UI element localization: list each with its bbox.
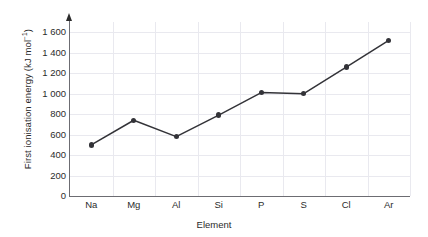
- x-axis-tick-label-si: Si: [199, 199, 239, 210]
- plot-area: [70, 22, 410, 196]
- x-axis-line: [69, 196, 410, 197]
- y-axis-line: [69, 20, 70, 197]
- y-axis-arrow-icon: [66, 13, 72, 21]
- ionisation-energy-chart: 02004006008001 0001 2001 4001 600 NaMgAl…: [0, 0, 428, 237]
- x-axis-tick-label-na: Na: [71, 199, 111, 210]
- gridline-vertical: [410, 22, 411, 196]
- y-axis-title-superscript: −1: [21, 32, 28, 40]
- x-axis-tick-label-cl: Cl: [326, 199, 366, 210]
- data-point-na: [89, 142, 94, 147]
- gridline-vertical: [240, 22, 241, 196]
- x-axis-title: Element: [0, 219, 428, 230]
- x-axis-tick-label-al: Al: [156, 199, 196, 210]
- x-axis-tick-label-s: S: [284, 199, 324, 210]
- data-point-cl: [344, 64, 349, 69]
- gridline-vertical: [155, 22, 156, 196]
- gridline-vertical: [113, 22, 114, 196]
- gridline-vertical: [368, 22, 369, 196]
- y-axis-title: First ionisation energy (kJ mol−1): [21, 9, 33, 189]
- gridline-vertical: [283, 22, 284, 196]
- gridline-vertical: [325, 22, 326, 196]
- x-axis-tick-label-mg: Mg: [114, 199, 154, 210]
- x-axis-tick-label-p: P: [241, 199, 281, 210]
- x-axis-tick-label-ar: Ar: [369, 199, 409, 210]
- y-axis-tick-label: 0: [20, 191, 66, 201]
- gridline-vertical: [198, 22, 199, 196]
